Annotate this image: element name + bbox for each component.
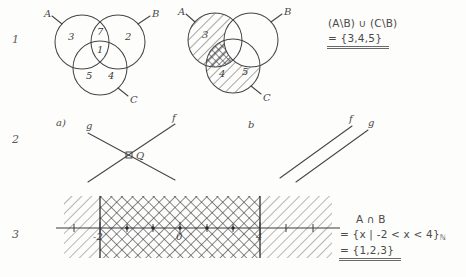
numberline-tick-label-1: 0 xyxy=(176,231,182,242)
venn1-circle-a xyxy=(55,15,109,69)
numberline-diagram xyxy=(56,196,340,258)
exercise1-expression: (A\B) ∪ (C\B) xyxy=(328,17,397,29)
exercise1-result-underline-2 xyxy=(327,48,389,49)
venn1-circle-b xyxy=(91,15,145,69)
exercise3-setbuilder-subscript: ℕ xyxy=(440,233,446,242)
line-label-g-a: g xyxy=(86,120,92,131)
venn2-value-b-and-c: 5 xyxy=(242,66,248,77)
exercise1-result-underline-1 xyxy=(327,46,389,47)
exercise3-setbuilder: = {x | -2 < x < 4}ℕ xyxy=(340,228,446,242)
venn1-value-a-and-c: 5 xyxy=(86,70,92,81)
venn2-label-c: C xyxy=(263,92,271,103)
numberline-outside-right xyxy=(260,196,332,258)
exercise3-result-underline-1 xyxy=(339,258,401,259)
venn1-label-a: A xyxy=(44,8,51,19)
line-g-b xyxy=(296,130,368,182)
worksheet-page: 1 2 3 xyxy=(0,0,466,277)
line-f-b xyxy=(280,126,352,178)
venn2-value-a-only: 3 xyxy=(202,29,208,40)
venn1-value-b-only: 2 xyxy=(125,31,131,42)
exercise2-part-a-drawing xyxy=(88,124,175,182)
exercise3-result: = {1,2,3} xyxy=(340,244,394,256)
numberline-outside-left xyxy=(64,196,100,258)
venn1-label-c: C xyxy=(130,94,138,105)
venn2-leader-a xyxy=(186,14,195,22)
numberline-tick-label-2: 4 xyxy=(256,231,262,242)
intersection-label-q: Q xyxy=(136,150,144,161)
exercise2-part-a-label: a) xyxy=(56,117,66,128)
exercise2-part-b-drawing xyxy=(280,126,368,182)
venn1-label-b: B xyxy=(152,8,159,19)
line-label-f-a: f xyxy=(172,112,176,123)
venn1-leader-b xyxy=(138,16,150,24)
venn2-value-a-and-c: 4 xyxy=(219,68,225,79)
venn2-label-b: B xyxy=(284,6,291,17)
exercise3-result-underline-2 xyxy=(339,260,401,261)
venn2-leader-c xyxy=(251,86,261,94)
venn1-value-b-and-c: 4 xyxy=(108,70,114,81)
venn1-leader-a xyxy=(52,16,62,24)
exercise1-result: = {3,4,5} xyxy=(328,32,382,44)
exercise3-expression: A ∩ B xyxy=(356,213,386,225)
exercise3-setbuilder-text: = {x | -2 < x < 4} xyxy=(340,228,440,240)
venn1-value-a-b-c: 1 xyxy=(97,44,103,55)
line-label-f-b: f xyxy=(349,113,353,124)
exercise2-part-b-label: b xyxy=(248,119,254,130)
venn1-value-a-only: 3 xyxy=(68,31,74,42)
venn1-value-a-and-b: 7 xyxy=(97,26,103,37)
venn1-leader-c xyxy=(118,88,128,96)
line-label-g-b: g xyxy=(368,117,374,128)
numberline-tick-label-0: -2 xyxy=(93,231,103,242)
venn-diagram-shaded xyxy=(186,13,282,94)
venn2-leader-b xyxy=(271,14,282,22)
venn2-label-a: A xyxy=(178,6,185,17)
